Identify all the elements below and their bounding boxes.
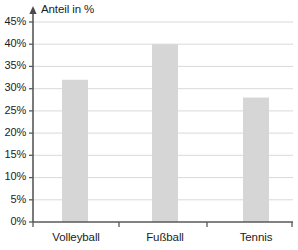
y-tick-label-45: 45% <box>0 15 26 27</box>
x-category-label-volleyball: Volleyball <box>35 231 117 243</box>
y-axis-title: Anteil in % <box>41 3 94 15</box>
y-axis-arrow-icon <box>29 6 36 14</box>
x-category-label-tennis: Tennis <box>215 231 297 243</box>
chart-canvas <box>0 0 298 250</box>
y-tick-label-25: 25% <box>0 104 26 116</box>
bar-tennis <box>243 98 269 222</box>
bar-fussball <box>152 44 178 222</box>
x-axis <box>33 222 293 227</box>
y-tick-label-5: 5% <box>0 193 26 205</box>
x-category-label-fussball: Fußball <box>124 231 206 243</box>
y-tick-label-20: 20% <box>0 126 26 138</box>
bar-chart: Anteil in % 45% 40% 35% 30% 25% 20% 15% … <box>0 0 298 250</box>
y-tick-label-10: 10% <box>0 170 26 182</box>
y-axis <box>29 6 36 222</box>
y-tick-label-15: 15% <box>0 148 26 160</box>
y-tick-label-30: 30% <box>0 81 26 93</box>
y-tick-label-35: 35% <box>0 59 26 71</box>
y-tick-label-40: 40% <box>0 37 26 49</box>
y-tick-label-0: 0% <box>0 215 26 227</box>
bar-volleyball <box>62 80 88 222</box>
